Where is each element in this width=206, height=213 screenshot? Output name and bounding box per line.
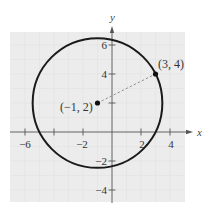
x-tick-label-4: 4	[168, 138, 174, 150]
x-tick-label-neg2: −2	[76, 138, 88, 150]
x-tick-label-2: 2	[139, 138, 145, 150]
center-point	[95, 100, 100, 105]
y-axis-arrow-icon	[110, 26, 114, 33]
y-axis-label: y	[109, 11, 115, 23]
x-tick-label-neg6: −6	[19, 138, 31, 150]
y-tick-label-4: 4	[102, 68, 108, 80]
y-tick-label-neg4: −4	[95, 184, 107, 196]
y-tick-label-neg2: −2	[95, 155, 107, 167]
x-axis-label: x	[196, 126, 202, 138]
point-on-circle	[153, 71, 158, 76]
x-axis-arrow-icon	[186, 130, 193, 134]
circle-graph: −6 −2 2 4 6 4 −2 −4 x y (−1, 2) (3, 4)	[0, 0, 206, 213]
center-point-label: (−1, 2)	[60, 100, 93, 114]
point-on-circle-label: (3, 4)	[158, 57, 184, 71]
y-tick-label-6: 6	[102, 39, 108, 51]
